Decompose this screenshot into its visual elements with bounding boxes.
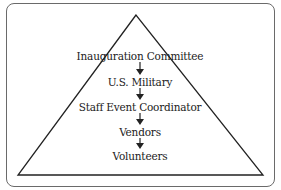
level-inauguration-committee: Inauguration Committee [40, 50, 240, 62]
down-arrow-icon [136, 88, 144, 100]
level-vendors: Vendors [40, 126, 240, 138]
level-staff-event-coordinator: Staff Event Coordinator [40, 101, 240, 113]
down-arrow-icon [136, 113, 144, 125]
down-arrow-icon [136, 62, 144, 75]
level-volunteers: Volunteers [40, 150, 240, 162]
level-us-military: U.S. Military [40, 76, 240, 88]
down-arrow-icon [136, 138, 144, 149]
